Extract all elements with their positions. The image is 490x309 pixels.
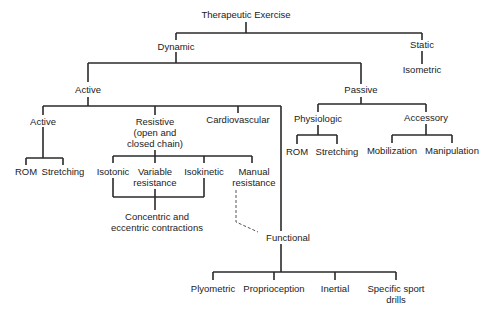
node-isokinetic: Isokinetic	[184, 166, 224, 177]
therapeutic-exercise-diagram: Therapeutic Exercise Dynamic Static Isom…	[0, 0, 490, 309]
resistive-line-3: closed chain)	[127, 138, 183, 149]
node-functional: Functional	[266, 232, 310, 243]
node-passive: Passive	[344, 84, 377, 95]
node-physiologic: Physiologic	[294, 113, 342, 124]
node-manual-resistance: Manual resistance	[232, 166, 275, 188]
node-resistive: Resistive (open and closed chain)	[127, 116, 183, 149]
node-rom-passive: ROM	[286, 146, 308, 157]
variable-resistance-line-2: resistance	[133, 177, 176, 188]
node-active-sub: Active	[30, 116, 56, 127]
specific-sport-line-1: Specific sport	[367, 283, 424, 294]
node-stretching-active: Stretching	[42, 166, 85, 177]
specific-sport-line-2: drills	[367, 294, 424, 305]
resistive-line-2: (open and	[127, 127, 183, 138]
node-active: Active	[75, 84, 101, 95]
concentric-line-1: Concentric and	[111, 211, 203, 222]
node-static: Static	[410, 39, 434, 50]
node-specific-sport-drills: Specific sport drills	[367, 283, 424, 305]
node-variable-resistance: Variable resistance	[133, 166, 176, 188]
node-isometric: Isometric	[403, 64, 442, 75]
node-therapeutic-exercise: Therapeutic Exercise	[201, 9, 290, 20]
manual-resistance-line-2: resistance	[232, 177, 275, 188]
node-inertial: Inertial	[321, 283, 350, 294]
node-dynamic: Dynamic	[158, 41, 195, 52]
node-cardiovascular: Cardiovascular	[206, 114, 269, 125]
variable-resistance-line-1: Variable	[133, 166, 176, 177]
node-manipulation: Manipulation	[425, 145, 479, 156]
node-rom-active: ROM	[15, 166, 37, 177]
node-proprioception: Proprioception	[243, 283, 304, 294]
concentric-line-2: eccentric contractions	[111, 222, 203, 233]
node-stretching-passive: Stretching	[316, 146, 359, 157]
node-mobilization: Mobilization	[367, 145, 417, 156]
node-isotonic: Isotonic	[97, 166, 130, 177]
resistive-line-1: Resistive	[127, 116, 183, 127]
node-accessory: Accessory	[404, 112, 448, 123]
node-concentric-eccentric: Concentric and eccentric contractions	[111, 211, 203, 233]
manual-resistance-line-1: Manual	[232, 166, 275, 177]
node-plyometric: Plyometric	[191, 283, 235, 294]
